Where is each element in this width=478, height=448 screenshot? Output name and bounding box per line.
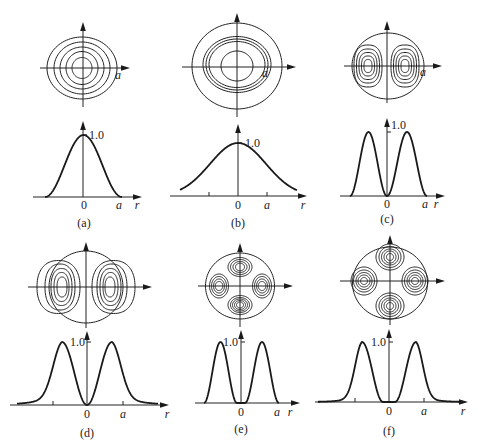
panel-caption: (b): [231, 216, 245, 230]
axis-label: 1.0: [245, 136, 260, 150]
axis-label: r: [288, 405, 293, 419]
axis-label: a: [422, 197, 428, 211]
axis-label: 0: [238, 405, 244, 419]
panel-caption: (e): [234, 422, 247, 436]
axis-label: a: [120, 407, 126, 421]
axis-label: 1.0: [223, 335, 238, 349]
radius-label: a: [262, 66, 268, 80]
axis-label: r: [165, 407, 170, 421]
axis-label: 0: [84, 407, 90, 421]
axis-label: 0: [235, 198, 241, 212]
panel-caption: (f): [383, 424, 395, 438]
mode-pattern-figure: a1.00ar(a)a1.00ar(b)a1.00ar(c)1.00ar(d)1…: [0, 0, 478, 448]
axis-label: r: [461, 404, 466, 418]
panel-caption: (c): [380, 212, 393, 226]
axis-label: 1.0: [371, 335, 386, 349]
axis-label: r: [301, 198, 306, 212]
axis-label: 0: [81, 198, 87, 212]
axis-label: a: [274, 405, 280, 419]
panel-caption: (a): [77, 216, 90, 230]
axis-label: a: [264, 198, 270, 212]
axis-label: 0: [386, 404, 392, 418]
axis-label: 1.0: [89, 128, 104, 142]
axis-label: r: [135, 198, 140, 212]
axis-label: 0: [384, 197, 390, 211]
axis-label: a: [421, 404, 427, 418]
panel-caption: (d): [80, 426, 94, 440]
axis-label: a: [116, 198, 122, 212]
axis-label: 1.0: [391, 118, 406, 132]
radius-label: a: [420, 65, 426, 79]
axis-label: 1.0: [70, 335, 85, 349]
radius-label: a: [115, 68, 121, 82]
axis-label: r: [434, 197, 439, 211]
